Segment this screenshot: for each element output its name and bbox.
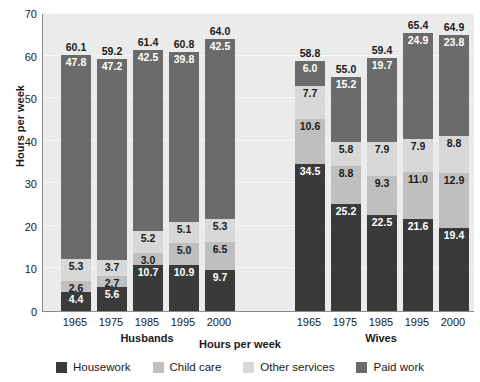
segment-value-label: 8.8: [331, 168, 361, 179]
bar-segment[interactable]: 19.759.4: [367, 58, 397, 142]
x-tick-label: 2000: [430, 316, 476, 328]
segment-value-label: 42.5: [205, 41, 235, 52]
bar-segment[interactable]: 8.8: [331, 166, 361, 203]
segment-value-label: 10.9: [169, 267, 199, 278]
bar-segment[interactable]: 5.0: [169, 243, 199, 264]
bar-segment[interactable]: 21.6: [403, 219, 433, 311]
legend-item[interactable]: Housework: [56, 361, 131, 373]
legend-swatch: [243, 362, 254, 373]
segment-value-label: 4.4: [61, 294, 91, 305]
bar-total-label: 64.0: [199, 25, 241, 37]
bar-segment[interactable]: 8.8: [439, 136, 469, 173]
stacked-bar-chart: Hours per week 010203040506070 47.860.15…: [0, 0, 480, 382]
bar-segment[interactable]: 47.860.1: [61, 55, 91, 258]
bar-segment[interactable]: 10.6: [295, 119, 325, 164]
segment-value-label: 25.2: [331, 206, 361, 217]
bar-segment[interactable]: 42.561.4: [133, 50, 163, 231]
bar-segment[interactable]: 5.1: [169, 222, 199, 244]
bar-segment[interactable]: 5.6: [97, 287, 127, 311]
bar-segment[interactable]: 39.860.8: [169, 52, 199, 221]
bar-total-label: 60.8: [163, 38, 205, 50]
segment-value-label: 5.3: [61, 261, 91, 272]
bar-segment[interactable]: 10.9: [169, 265, 199, 311]
x-axis-ticks: 1965197519851995200019651975198519952000: [42, 316, 474, 330]
bar-segment[interactable]: 5.8: [331, 142, 361, 167]
segment-value-label: 19.4: [439, 230, 469, 241]
y-tick-label: 40: [1, 136, 37, 148]
segment-value-label: 5.0: [169, 245, 199, 256]
stacked-bar[interactable]: 39.860.85.15.010.9: [169, 52, 199, 311]
bar-segment[interactable]: 42.564.0: [205, 39, 235, 220]
bar-segment[interactable]: 5.2: [133, 231, 163, 253]
y-axis-ticks: 010203040506070: [0, 14, 40, 312]
y-tick-label: 70: [1, 8, 37, 20]
segment-value-label: 22.5: [367, 217, 397, 228]
bar-segment[interactable]: 9.3: [367, 176, 397, 216]
segment-value-label: 5.8: [331, 144, 361, 155]
stacked-bar[interactable]: 47.259.23.72.75.6: [97, 59, 127, 311]
bar-segment[interactable]: 9.7: [205, 270, 235, 311]
segment-value-label: 8.8: [439, 138, 469, 149]
bar-segment[interactable]: 6.5: [205, 242, 235, 270]
segment-value-label: 3.7: [97, 262, 127, 273]
bar-segment[interactable]: 25.2: [331, 204, 361, 311]
legend-swatch: [153, 362, 164, 373]
y-tick-label: 0: [1, 306, 37, 318]
legend-item[interactable]: Paid work: [356, 361, 424, 373]
stacked-bar[interactable]: 15.255.05.88.825.2: [331, 77, 361, 311]
bar-segment[interactable]: 7.9: [403, 139, 433, 173]
bar-segment[interactable]: 23.864.9: [439, 35, 469, 136]
bar-segment[interactable]: 4.4: [61, 292, 91, 311]
y-tick-label: 60: [1, 51, 37, 63]
segment-value-label: 9.3: [367, 178, 397, 189]
stacked-bar[interactable]: 24.965.47.911.021.6: [403, 33, 433, 311]
bar-segment[interactable]: 7.9: [367, 142, 397, 176]
legend: HouseworkChild careOther servicesPaid wo…: [0, 357, 480, 377]
bar-segment[interactable]: 10.7: [133, 265, 163, 311]
x-axis-title: Hours per week: [0, 338, 480, 350]
segment-value-label: 19.7: [367, 60, 397, 71]
legend-label: Other services: [260, 361, 334, 373]
bars-container: 47.860.15.32.64.447.259.23.72.75.642.561…: [43, 14, 474, 311]
legend-item[interactable]: Child care: [153, 361, 222, 373]
bar-total-label: 55.0: [325, 63, 367, 75]
legend-label: Paid work: [373, 361, 424, 373]
segment-value-label: 10.7: [133, 267, 163, 278]
bar-segment[interactable]: 7.7: [295, 86, 325, 119]
segment-value-label: 23.8: [439, 37, 469, 48]
bar-segment[interactable]: 5.3: [61, 259, 91, 282]
segment-value-label: 7.7: [295, 88, 325, 99]
bar-segment[interactable]: 2.7: [97, 276, 127, 287]
legend-label: Child care: [170, 361, 222, 373]
bar-segment[interactable]: 11.0: [403, 172, 433, 219]
bar-segment[interactable]: 5.3: [205, 219, 235, 242]
stacked-bar[interactable]: 42.564.05.36.59.7: [205, 39, 235, 311]
segment-value-label: 39.8: [169, 54, 199, 65]
bar-segment[interactable]: 19.4: [439, 228, 469, 311]
bar-segment[interactable]: 34.5: [295, 164, 325, 311]
segment-value-label: 7.9: [403, 141, 433, 152]
segment-value-label: 34.5: [295, 166, 325, 177]
segment-value-label: 12.9: [439, 175, 469, 186]
gridline: [43, 12, 474, 13]
bar-segment[interactable]: 2.6: [61, 281, 91, 292]
stacked-bar[interactable]: 6.058.87.710.634.5: [295, 61, 325, 311]
stacked-bar[interactable]: 42.561.45.23.010.7: [133, 50, 163, 311]
stacked-bar[interactable]: 23.864.98.812.919.4: [439, 35, 469, 311]
bar-segment[interactable]: 15.255.0: [331, 77, 361, 142]
bar-segment[interactable]: 6.058.8: [295, 61, 325, 87]
y-tick-label: 10: [1, 263, 37, 275]
bar-segment[interactable]: 22.5: [367, 215, 397, 311]
segment-value-label: 47.8: [61, 57, 91, 68]
bar-segment[interactable]: 3.7: [97, 260, 127, 276]
bar-segment[interactable]: 47.259.2: [97, 59, 127, 260]
segment-value-label: 11.0: [403, 174, 433, 185]
bar-segment[interactable]: 12.9: [439, 173, 469, 228]
y-tick-label: 50: [1, 93, 37, 105]
bar-segment[interactable]: 3.0: [133, 253, 163, 266]
legend-item[interactable]: Other services: [243, 361, 334, 373]
stacked-bar[interactable]: 47.860.15.32.64.4: [61, 55, 91, 311]
stacked-bar[interactable]: 19.759.47.99.322.5: [367, 58, 397, 311]
bar-segment[interactable]: 24.965.4: [403, 33, 433, 139]
bar-total-label: 58.8: [289, 47, 331, 59]
